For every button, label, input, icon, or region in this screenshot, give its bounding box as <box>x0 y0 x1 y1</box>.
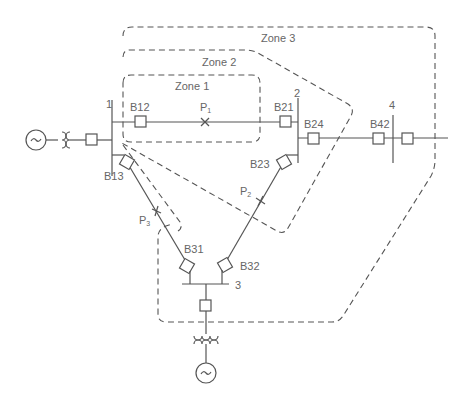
bus-3-label: 3 <box>235 279 241 291</box>
breaker-b24 <box>308 133 319 144</box>
breaker-b42 <box>373 133 384 144</box>
breaker-b32-label: B32 <box>240 260 260 272</box>
fault-p1-label: P1 <box>200 101 211 114</box>
breaker-b42-label: B42 <box>370 118 390 130</box>
bus-4-label: 4 <box>389 99 395 111</box>
zone3-label: Zone 3 <box>261 32 295 44</box>
zone3-boundary <box>123 27 435 322</box>
breaker-b23 <box>276 154 291 169</box>
breaker-gen3 <box>200 300 211 311</box>
breaker-b31-label: B31 <box>184 243 204 255</box>
generator-1 <box>26 130 46 150</box>
breaker-b12 <box>135 116 146 127</box>
breaker-b21-label: B21 <box>274 101 294 113</box>
breaker-bus4-out <box>402 133 413 144</box>
fault-p3-label: P3 <box>139 214 150 227</box>
transformer-3 <box>194 336 218 344</box>
breaker-b24-label: B24 <box>304 118 324 130</box>
bus-2-label: 2 <box>294 87 300 99</box>
breaker-b21 <box>280 116 291 127</box>
bus-1-label: 1 <box>106 98 112 110</box>
protection-zone-diagram: 1 B12 P1 B21 2 B24 B42 4 B13 P3 B31 B23 … <box>0 0 469 400</box>
zone1-label: Zone 1 <box>175 80 209 92</box>
generator-3 <box>196 363 216 383</box>
breaker-b13-label: B13 <box>104 170 124 182</box>
transformer-1 <box>62 132 70 148</box>
breaker-b12-label: B12 <box>130 101 150 113</box>
zone2-label: Zone 2 <box>202 56 236 68</box>
breaker-gen1 <box>86 134 97 145</box>
breaker-b32 <box>217 257 232 272</box>
fault-p2-label: P2 <box>240 185 251 198</box>
breaker-b31 <box>179 258 194 273</box>
breaker-b23-label: B23 <box>250 158 270 170</box>
